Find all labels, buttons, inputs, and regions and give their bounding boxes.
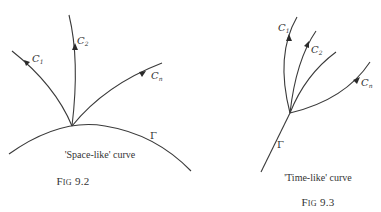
label-c1: C1 <box>32 53 43 65</box>
label-gamma: Γ <box>277 139 284 150</box>
figure-number-9-3: FIG 9.3 <box>301 196 334 208</box>
characteristic-cn-curve <box>72 63 162 126</box>
label-c2: C2 <box>311 44 323 56</box>
figure-9-3: C1 C2 Cn Γ 'Time-like' curve FIG 9.3 <box>261 17 373 208</box>
diagram-canvas: C1 C2 Cn Γ 'Space-like' curve FIG 9.2 C1 <box>0 0 381 212</box>
figure-number-9-2: FIG 9.2 <box>56 175 89 187</box>
figure-9-2: C1 C2 Cn Γ 'Space-like' curve FIG 9.2 <box>9 15 191 187</box>
characteristic-unlabeled-curve <box>290 52 336 113</box>
label-cn: Cn <box>151 70 163 82</box>
caption-time-like: 'Time-like' curve <box>284 172 352 183</box>
label-c1: C1 <box>278 22 289 34</box>
label-gamma: Γ <box>150 130 157 141</box>
arrow-c2-icon <box>304 41 309 48</box>
caption-space-like: 'Space-like' curve <box>65 149 136 160</box>
label-cn: Cn <box>361 77 373 89</box>
arrow-c1-icon <box>286 34 292 41</box>
characteristic-cn-curve <box>290 62 370 113</box>
arrow-cn-icon <box>139 71 146 77</box>
label-c2: C2 <box>77 35 89 47</box>
gamma-space-like-curve <box>9 125 191 171</box>
characteristic-c2-curve <box>69 15 75 126</box>
gamma-time-like-curve <box>261 113 290 172</box>
